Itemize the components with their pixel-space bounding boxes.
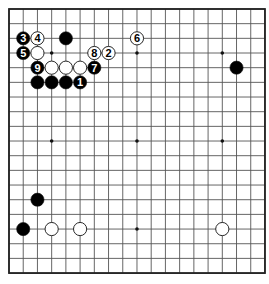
star-point <box>50 139 54 143</box>
black-stone <box>31 76 44 89</box>
go-board: 135792468 <box>0 0 269 284</box>
black-stone-icon <box>17 222 30 235</box>
star-point <box>221 139 225 143</box>
black-stone-1: 1 <box>74 76 87 89</box>
white-stone-icon <box>59 61 72 74</box>
white-stone-6: 6 <box>130 32 143 45</box>
black-stone <box>17 222 30 235</box>
star-point <box>135 51 139 55</box>
white-stone-icon <box>216 222 229 235</box>
star-point <box>135 227 139 231</box>
white-stone-icon <box>31 46 44 59</box>
white-stone-8: 8 <box>88 46 101 59</box>
black-stone-icon <box>59 76 72 89</box>
move-number: 4 <box>34 32 41 44</box>
black-stone-icon <box>45 76 58 89</box>
black-stone-7: 7 <box>88 61 101 74</box>
white-stone <box>59 61 72 74</box>
black-stone-icon <box>230 61 243 74</box>
white-stone <box>31 46 44 59</box>
black-stone-icon <box>59 32 72 45</box>
white-stone <box>216 222 229 235</box>
black-stone <box>59 32 72 45</box>
white-stone-icon <box>74 222 87 235</box>
white-stone-4: 4 <box>31 32 44 45</box>
white-stone-icon <box>74 61 87 74</box>
black-stone <box>59 76 72 89</box>
move-number: 1 <box>77 76 83 88</box>
white-stone-2: 2 <box>102 46 115 59</box>
move-number: 8 <box>91 47 97 59</box>
star-point <box>50 51 54 55</box>
black-stone-icon <box>31 76 44 89</box>
black-stone-9: 9 <box>31 61 44 74</box>
white-stone <box>45 61 58 74</box>
black-stone-icon <box>31 193 44 206</box>
white-stone-icon <box>45 222 58 235</box>
move-number: 7 <box>91 62 97 74</box>
move-number: 3 <box>20 32 26 44</box>
stones-layer: 135792468 <box>17 32 244 236</box>
white-stone-icon <box>45 61 58 74</box>
white-stone <box>74 222 87 235</box>
black-stone <box>31 193 44 206</box>
white-stone <box>74 61 87 74</box>
move-number: 6 <box>134 32 140 44</box>
black-stone <box>230 61 243 74</box>
move-number: 9 <box>34 62 40 74</box>
move-number: 2 <box>105 47 111 59</box>
black-stone <box>45 76 58 89</box>
black-stone-5: 5 <box>17 46 30 59</box>
star-point <box>221 51 225 55</box>
black-stone-3: 3 <box>17 32 30 45</box>
move-number: 5 <box>20 47 26 59</box>
star-point <box>135 139 139 143</box>
white-stone <box>45 222 58 235</box>
